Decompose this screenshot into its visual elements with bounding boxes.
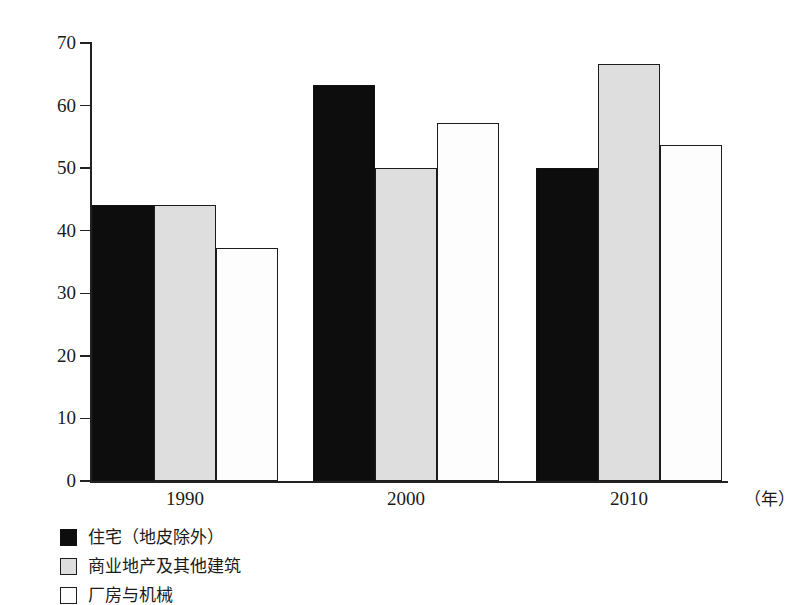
y-axis-tick-label: 30 [28,283,76,302]
bar [536,168,598,481]
bar [375,168,437,481]
y-axis-tick [80,230,90,232]
bar [660,145,722,481]
x-axis-line [90,481,728,483]
x-axis-label: 1990 [92,488,278,510]
y-axis-tick [80,480,90,482]
bar [598,64,660,481]
x-axis-unit-label: （年） [744,488,788,510]
legend-item-label: 商业地产及其他建筑 [88,557,241,576]
y-axis-tick-label: 70 [28,33,76,52]
legend-swatch-icon [60,587,77,604]
y-axis-tick [80,355,90,357]
y-axis-tick-label: 10 [28,408,76,427]
y-axis-tick [80,167,90,169]
legend-item: 厂房与机械 [60,582,241,605]
y-axis-tick [80,293,90,295]
legend-item: 商业地产及其他建筑 [60,553,241,580]
bar [437,123,499,481]
legend-item-label: 住宅（地皮除外） [88,528,224,547]
bar-group [92,43,278,481]
bar [216,248,278,481]
x-axis-label: 2010 [536,488,722,510]
y-axis-tick [80,418,90,420]
y-axis-tick [80,42,90,44]
bar [92,205,154,481]
y-axis-tick-label: 0 [28,471,76,490]
legend-item-label: 厂房与机械 [88,586,173,605]
legend-swatch-icon [60,558,77,575]
plot-area [92,43,728,481]
y-axis-tick-label: 50 [28,158,76,177]
legend-item: 住宅（地皮除外） [60,524,241,551]
y-axis-tick [80,105,90,107]
legend-swatch-icon [60,529,77,546]
bar-group [313,43,499,481]
chart-legend: 住宅（地皮除外）商业地产及其他建筑厂房与机械 [60,524,241,605]
bar-group [536,43,722,481]
bar [313,85,375,481]
y-axis-tick-label: 20 [28,346,76,365]
y-axis-tick-label: 40 [28,221,76,240]
bar [154,205,216,481]
y-axis-tick-label: 60 [28,96,76,115]
x-axis-label: 2000 [313,488,499,510]
